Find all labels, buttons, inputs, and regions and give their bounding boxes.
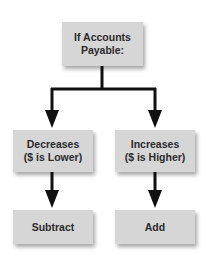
root-node-line-2: Payable:	[74, 44, 131, 57]
subtract-node: Subtract	[13, 210, 93, 244]
root-node: If Accounts Payable:	[62, 22, 143, 66]
decreases-node: Decreases ($ is Lower)	[13, 130, 93, 172]
arrow-down-icon	[148, 190, 162, 208]
arrow-down-icon	[45, 110, 59, 128]
add-node-label: Add	[145, 221, 165, 234]
increases-node-line-2: ($ is Higher)	[125, 151, 186, 164]
add-node: Add	[115, 210, 195, 244]
increases-node-line-1: Increases	[125, 138, 186, 151]
arrow-down-icon	[45, 190, 59, 208]
subtract-node-label: Subtract	[32, 221, 75, 234]
increases-node: Increases ($ is Higher)	[115, 130, 195, 172]
decreases-node-line-2: ($ is Lower)	[24, 151, 82, 164]
arrow-down-icon	[148, 110, 162, 128]
decreases-node-line-1: Decreases	[24, 138, 82, 151]
root-node-line-1: If Accounts	[74, 31, 131, 44]
